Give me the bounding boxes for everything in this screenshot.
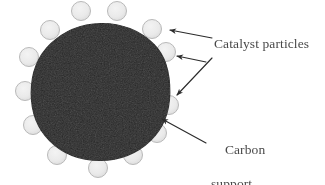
figure-canvas: Catalyst particles Carbon support (0, 0, 325, 185)
catalyst-particle (143, 20, 162, 39)
carbon-support-label: Carbon support (211, 124, 265, 185)
catalyst-particle (89, 159, 108, 178)
catalyst-arrow-upper-icon (170, 30, 212, 38)
carbon-support-arrow-icon (162, 119, 206, 143)
carbon-support-sphere (31, 23, 170, 160)
carbon-support-label-line2: support (211, 175, 265, 185)
catalyst-particle (41, 21, 60, 40)
catalyst-particle (72, 2, 91, 21)
catalyst-arrow-middle-icon (177, 56, 206, 62)
catalyst-particle (108, 2, 127, 21)
catalyst-particle (20, 48, 39, 67)
diagram-svg (0, 0, 325, 185)
catalyst-particles-label: Catalyst particles (214, 35, 309, 52)
carbon-support-label-line1: Carbon (225, 142, 265, 157)
catalyst-arrow-lower-icon (177, 58, 212, 95)
